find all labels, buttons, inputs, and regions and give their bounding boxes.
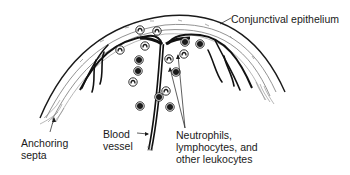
neutrophil-cell	[129, 78, 137, 86]
neutrophil-cell	[165, 55, 173, 63]
label-blood-vessel: Blood vessel	[103, 128, 133, 152]
lymphocyte-cell	[172, 68, 180, 76]
label-line: other leukocytes	[176, 153, 258, 165]
lymphocyte-cell	[134, 67, 142, 75]
label-line: Blood	[103, 128, 133, 140]
conjunctival-epithelium	[40, 15, 285, 122]
neutrophil-cell	[162, 87, 170, 95]
conjunctiva-diagram: Conjunctival epithelium Anchoring septa …	[0, 0, 350, 175]
lymphocyte-cell	[155, 93, 163, 101]
label-leukocytes: Neutrophils, lymphocytes, and other leuk…	[176, 129, 258, 165]
neutrophil-leader	[170, 68, 185, 128]
label-line: Anchoring	[21, 137, 68, 149]
label-line: vessel	[103, 140, 133, 152]
neutrophil-cell	[153, 27, 161, 35]
neutrophil-arrowhead	[168, 67, 172, 72]
lymphocyte-cell	[181, 38, 189, 46]
lymphocyte-arrowhead	[176, 54, 180, 59]
lymphocyte-cell	[136, 102, 144, 110]
label-line: lymphocytes, and	[176, 141, 258, 153]
label-line: Neutrophils,	[176, 129, 258, 141]
blood-vessel-arrowhead	[145, 132, 149, 136]
neutrophil-cell	[180, 50, 188, 58]
lymphocyte-cell	[135, 56, 143, 64]
neutrophil-cell	[141, 42, 149, 50]
label-anchoring-septa: Anchoring septa	[21, 137, 68, 161]
neutrophil-cell	[136, 26, 144, 34]
lymphocyte-leader	[178, 55, 185, 128]
label-line: Conjunctival epithelium	[231, 13, 339, 25]
lymphocyte-cell	[166, 103, 174, 111]
epithelium-leader	[220, 18, 231, 24]
label-conjunctival-epithelium: Conjunctival epithelium	[231, 13, 339, 25]
neutrophil-cell	[116, 46, 124, 54]
lymphocyte-cell	[196, 40, 204, 48]
label-line: septa	[21, 149, 68, 161]
